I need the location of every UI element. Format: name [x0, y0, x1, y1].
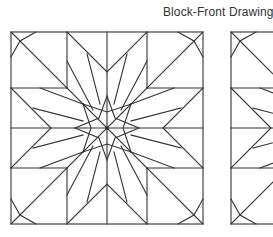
block-front-drawing-2 — [231, 32, 273, 224]
block-drawings-canvas — [0, 0, 273, 237]
block-front-drawing-1 — [11, 32, 203, 224]
